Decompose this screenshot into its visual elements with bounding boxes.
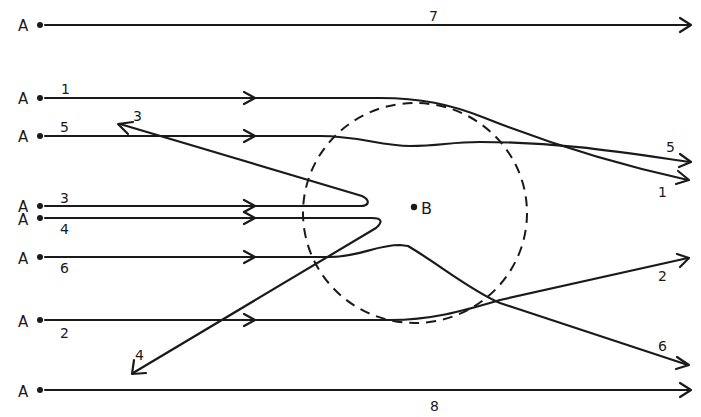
source-label: A	[18, 17, 29, 35]
target-label: B	[421, 199, 432, 218]
path-number-label: 3	[60, 190, 69, 206]
path-4: A 4 4	[18, 211, 381, 374]
source-label: A	[18, 128, 29, 146]
path-2: A 2 2	[18, 254, 689, 341]
target-b: B	[411, 199, 432, 218]
path-end-number-label: 6	[658, 338, 667, 354]
source-dot	[37, 317, 43, 323]
path-3: A 3 3	[18, 108, 368, 216]
source-label: A	[18, 383, 29, 401]
path-number-label: 2	[60, 325, 69, 341]
path-8: A 8	[18, 383, 691, 414]
source-label: A	[18, 211, 29, 229]
source-dot	[37, 203, 43, 209]
path-end-number-label: 1	[658, 184, 667, 200]
source-label: A	[18, 90, 29, 108]
path-1: A 1 1	[18, 81, 689, 200]
path-number-label: 5	[60, 119, 69, 135]
target-dot	[411, 204, 417, 210]
path-end-number-label: 4	[135, 347, 144, 363]
scattering-diagram: B A 7 A 1 1 A 5 5 A 3 3 A	[0, 0, 701, 417]
path-7: A 7	[18, 8, 691, 35]
source-label: A	[18, 250, 29, 268]
path-end-number-label: 5	[666, 139, 675, 155]
path-number-label: 8	[430, 398, 439, 414]
source-dot	[37, 22, 43, 28]
path-number-label: 6	[60, 260, 69, 276]
trajectory-line	[45, 136, 690, 162]
source-dot	[37, 95, 43, 101]
path-end-number-label: 2	[658, 268, 667, 284]
path-number-label: 7	[429, 8, 438, 24]
source-label: A	[18, 313, 29, 331]
trajectory-line	[45, 218, 381, 373]
source-dot	[37, 387, 43, 393]
path-number-label: 4	[60, 221, 69, 237]
trajectory-line	[45, 258, 688, 320]
path-end-number-label: 3	[133, 108, 142, 124]
path-number-label: 1	[61, 81, 70, 97]
source-dot	[37, 215, 43, 221]
source-dot	[37, 254, 43, 260]
source-dot	[37, 133, 43, 139]
path-6: A 6 6	[18, 245, 689, 369]
